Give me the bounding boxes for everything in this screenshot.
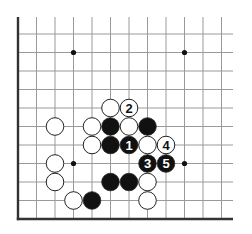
black-stone-move-5: 5 xyxy=(157,155,175,173)
star-point xyxy=(182,50,187,55)
white-stone xyxy=(139,192,157,210)
black-stone xyxy=(102,118,120,136)
move-number: 4 xyxy=(162,138,170,153)
go-board: 21435 xyxy=(0,0,252,234)
move-number: 2 xyxy=(125,101,132,116)
move-number: 1 xyxy=(125,138,132,153)
stone-disc xyxy=(46,155,64,173)
white-stone xyxy=(120,118,138,136)
move-number: 5 xyxy=(162,156,169,171)
stone-disc xyxy=(102,118,120,136)
stone-disc xyxy=(46,173,64,191)
stone-disc xyxy=(83,192,101,210)
stone-disc xyxy=(102,173,120,191)
white-stone-move-2: 2 xyxy=(120,99,138,117)
star-point xyxy=(71,50,76,55)
stone-disc xyxy=(120,173,138,191)
stone-disc xyxy=(120,118,138,136)
white-stone xyxy=(83,136,101,154)
stone-disc xyxy=(139,173,157,191)
stone-disc xyxy=(46,118,64,136)
star-point xyxy=(182,161,187,166)
black-stone xyxy=(102,173,120,191)
white-stone xyxy=(102,99,120,117)
black-stone-move-1: 1 xyxy=(120,136,138,154)
stone-disc xyxy=(139,192,157,210)
star-point xyxy=(71,161,76,166)
white-stone xyxy=(65,192,83,210)
black-stone xyxy=(139,118,157,136)
stone-disc xyxy=(65,192,83,210)
white-stone xyxy=(46,155,64,173)
black-stone xyxy=(102,136,120,154)
white-stone xyxy=(139,136,157,154)
stone-disc xyxy=(102,99,120,117)
stone-disc xyxy=(102,136,120,154)
white-stone xyxy=(46,173,64,191)
stone-disc xyxy=(83,136,101,154)
move-number: 3 xyxy=(144,156,151,171)
white-stone xyxy=(46,118,64,136)
white-stone-move-4: 4 xyxy=(157,136,175,154)
white-stone xyxy=(83,118,101,136)
stone-disc xyxy=(139,136,157,154)
white-stone xyxy=(139,173,157,191)
stone-disc xyxy=(83,118,101,136)
black-stone-move-3: 3 xyxy=(139,155,157,173)
black-stone xyxy=(83,192,101,210)
black-stone xyxy=(120,173,138,191)
stone-disc xyxy=(139,118,157,136)
